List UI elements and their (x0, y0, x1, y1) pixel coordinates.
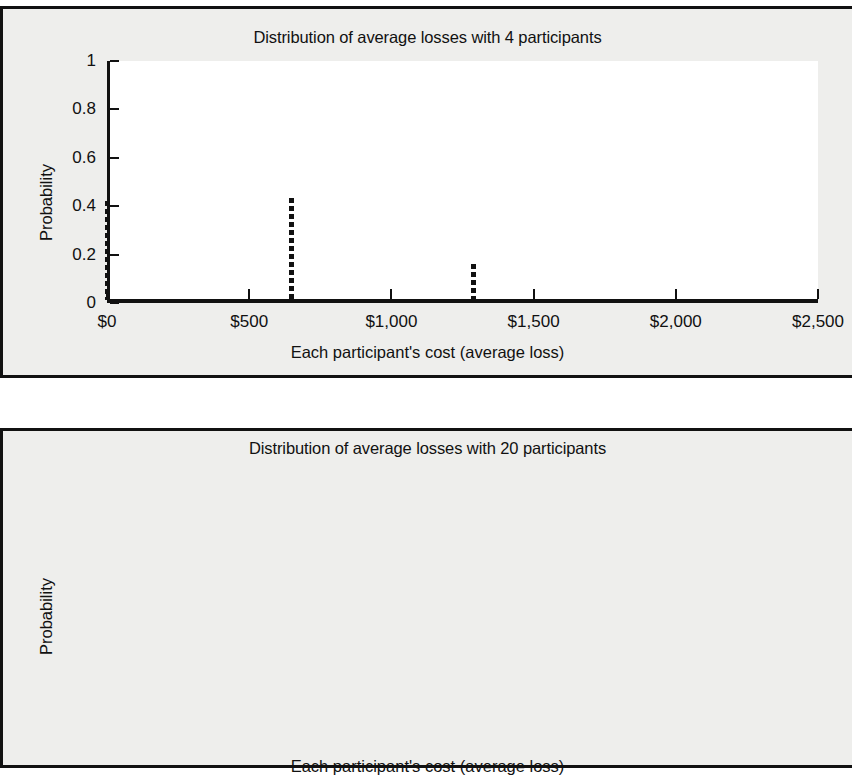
y-axis-tick (110, 157, 119, 159)
y-axis-tick-label: 0.4 (72, 196, 96, 216)
x-axis-tick-label: $2,500 (792, 312, 844, 332)
plot-area: 00.20.40.60.81$0$500$1,000$1,500$2,000$2… (107, 61, 818, 303)
figure-panel-20-participants: Distribution of average losses with 20 p… (0, 428, 852, 768)
data-stem (471, 264, 476, 300)
x-axis-tick (675, 289, 677, 299)
x-axis-tick (248, 289, 250, 299)
chart-title: Distribution of average losses with 20 p… (3, 439, 852, 458)
x-axis-tick (390, 289, 392, 299)
figure-panel-4-participants: Distribution of average losses with 4 pa… (0, 6, 852, 378)
data-stem (105, 201, 110, 300)
y-axis-tick-label: 0.2 (72, 245, 96, 265)
x-axis-tick-label: $0 (98, 312, 117, 332)
y-axis-tick-label: 0 (87, 293, 96, 313)
data-stem (289, 198, 294, 300)
plot-background (107, 61, 818, 303)
chart-title: Distribution of average losses with 4 pa… (3, 28, 852, 47)
x-axis-label: Each participant's cost (average loss) (3, 757, 852, 776)
x-axis-tick-label: $500 (230, 312, 268, 332)
y-axis-tick-label: 0.8 (72, 99, 96, 119)
x-axis-line (107, 299, 818, 303)
x-axis-tick-label: $1,000 (365, 312, 417, 332)
x-axis-tick (533, 289, 535, 299)
y-axis-tick-label: 1 (87, 51, 96, 71)
y-axis-label: Probability (37, 578, 56, 655)
y-axis-tick (110, 108, 119, 110)
y-axis-tick-label: 0.6 (72, 148, 96, 168)
y-axis-label: Probability (37, 164, 56, 241)
x-axis-tick-label: $2,000 (650, 312, 702, 332)
y-axis-tick (110, 302, 119, 304)
x-axis-tick-label: $1,500 (508, 312, 560, 332)
y-axis-tick (110, 60, 119, 62)
x-axis-label: Each participant's cost (average loss) (3, 343, 852, 362)
y-axis-tick (110, 254, 119, 256)
x-axis-tick (817, 289, 819, 299)
y-axis-tick (110, 205, 119, 207)
